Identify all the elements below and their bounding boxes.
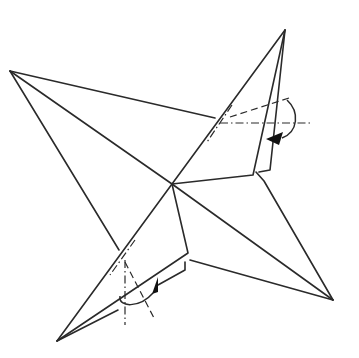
bottom-flap-left-edge [57,184,172,341]
right-point-lower-edge [190,260,333,300]
left-point-upper-edge [10,71,215,118]
mountain-fold-line-short [207,105,232,142]
valley-fold-line [230,97,292,117]
bottom-flap-outer-edge [57,310,118,341]
mountain-fold-line-short [110,240,135,275]
right-point-center-crease [172,184,333,300]
upper-flap-fold-guides [207,97,310,145]
top-flap-step [256,172,333,300]
valley-fold-line [125,262,155,320]
model-outline [10,30,333,341]
bottom-flap-step [158,262,185,285]
fold-arrow-curve [282,100,296,138]
lower-flap-fold-guides [110,240,158,325]
left-point-center-crease [10,71,172,184]
left-point-lower-edge [10,71,119,250]
origami-diagram [0,0,359,358]
fold-arrowhead-icon [152,277,158,294]
bottom-flap-inner-edge [57,184,188,341]
